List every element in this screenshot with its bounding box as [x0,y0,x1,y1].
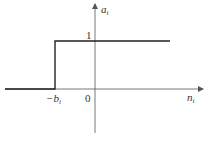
y-axis-label: ai [101,3,109,17]
x-axis-label: ni [187,91,195,105]
origin-label: 0 [85,92,91,104]
step-position-label: −bi [46,92,61,106]
step-function-line [5,41,170,89]
step-level-label: 1 [86,29,92,41]
step-function-diagram: ai ni 1 0 −bi [0,0,205,144]
